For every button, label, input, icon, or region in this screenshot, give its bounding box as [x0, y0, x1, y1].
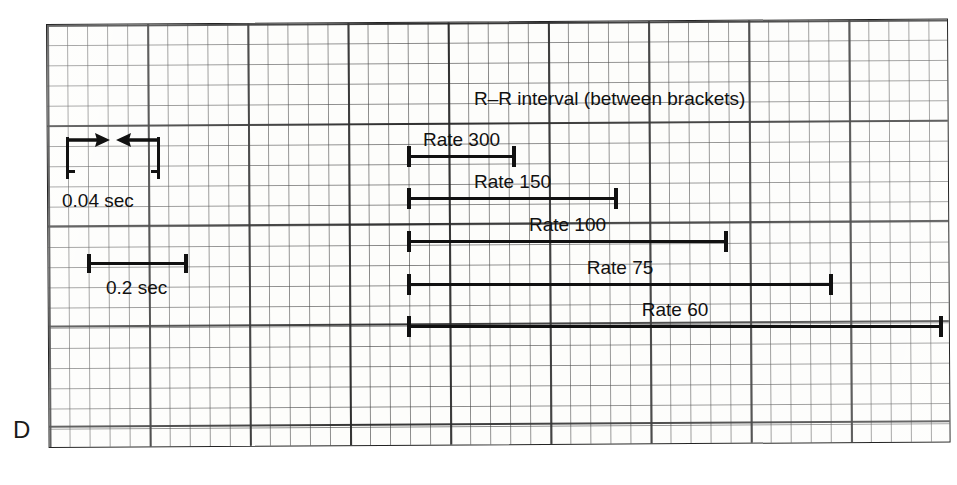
rate-bar-bracket-left: [407, 316, 411, 337]
rate-bar-label: Rate 150: [407, 172, 618, 191]
rate-bar-bracket-left: [407, 274, 411, 295]
rate-bar-line: [407, 325, 943, 328]
rate-bar-label: Rate 300: [407, 130, 516, 149]
calibration-bar-cap-right: [184, 254, 188, 273]
chart-title: R–R interval (between brackets): [474, 88, 745, 110]
calibration-bar-cap-left: [87, 254, 91, 273]
rate-bar-line: [407, 155, 516, 158]
rate-bar-bracket-right: [829, 274, 833, 295]
rate-bar-label: Rate 100: [407, 215, 728, 234]
calibration-bar-line: [87, 262, 188, 265]
rate-bar-bracket-right: [939, 316, 943, 337]
rate-bar-line: [407, 283, 833, 286]
rate-bar-bracket-right: [724, 231, 728, 252]
panel-letter: D: [13, 416, 31, 444]
rate-bar-label: Rate 60: [407, 300, 943, 319]
rate-bar-line: [407, 197, 618, 200]
rate-bar-label: Rate 75: [407, 258, 833, 277]
figure-stage: D 0.04 sec 0.2 sec R–R interval (between…: [0, 0, 957, 485]
rate-bar-line: [407, 240, 728, 243]
rate-bar-bracket-left: [407, 146, 411, 167]
rate-bar-bracket-right: [512, 146, 516, 167]
calibration-label-0-04-sec: 0.04 sec: [62, 190, 134, 212]
calibration-marker-0-04-sec: [66, 131, 160, 193]
rate-bar-bracket-right: [614, 188, 618, 209]
rate-bar-bracket-left: [407, 231, 411, 252]
calibration-label-0-2-sec: 0.2 sec: [106, 277, 167, 299]
rate-bar-bracket-left: [407, 188, 411, 209]
inward-arrows-icon: [66, 131, 160, 193]
